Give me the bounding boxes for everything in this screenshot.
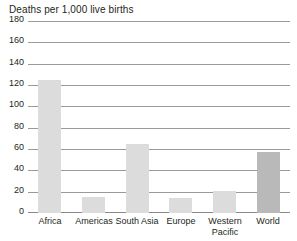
y-axis-tick-label: 180 xyxy=(0,15,24,24)
chart-title: Deaths per 1,000 live births xyxy=(9,4,134,16)
bar xyxy=(38,80,61,213)
bar xyxy=(126,144,149,213)
y-axis-tick-label: 40 xyxy=(0,164,24,173)
bar xyxy=(257,152,280,213)
x-axis-tick-label: World xyxy=(240,216,296,227)
y-axis-tick-label: 100 xyxy=(0,100,24,109)
y-axis-tick-label: 160 xyxy=(0,36,24,45)
y-axis-tick-label: 20 xyxy=(0,186,24,195)
x-axis-tick-labels: AfricaAmericasSouth AsiaEuropeWestern Pa… xyxy=(28,216,290,241)
y-axis-tick-label: 140 xyxy=(0,58,24,67)
y-axis-tick-label: 80 xyxy=(0,122,24,131)
bars-group xyxy=(28,21,290,213)
bar xyxy=(82,197,105,213)
y-axis-tick-label: 60 xyxy=(0,143,24,152)
bar xyxy=(213,191,236,213)
plot-area xyxy=(28,21,290,213)
y-axis-tick-labels: 020406080100120140160180 xyxy=(0,21,24,213)
y-axis-tick-label: 0 xyxy=(0,207,24,216)
bar-chart: Deaths per 1,000 live births 02040608010… xyxy=(0,0,297,241)
y-axis-tick-label: 120 xyxy=(0,79,24,88)
bar xyxy=(169,198,192,213)
